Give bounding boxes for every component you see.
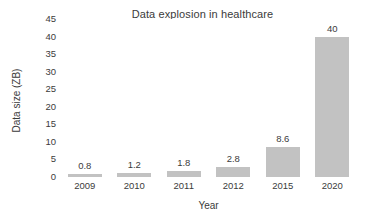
bar[interactable] [315,37,349,177]
bar[interactable] [167,171,201,177]
x-axis-tick-label: 2009 [74,180,95,192]
bar-chart-figure: Data explosion in healthcare Data size (… [0,0,367,223]
bar[interactable] [68,174,102,177]
y-axis-tick-label: 15 [30,119,56,129]
y-axis-tick-labels: 454035302520151050 [30,19,56,177]
x-axis-tick-labels: 200920102011201220152020 [60,180,357,194]
y-axis-tick-label: 20 [30,102,56,112]
y-axis-tick-label: 25 [30,84,56,94]
y-axis-tick-label: 45 [30,14,56,24]
y-axis-tick-label: 0 [30,172,56,182]
bar[interactable] [266,147,300,177]
bar-value-label: 40 [327,23,338,34]
bar-value-label: 1.8 [177,157,190,168]
x-axis-title: Year [60,200,357,211]
bar[interactable] [216,167,250,177]
bar[interactable] [117,173,151,177]
x-axis-tick-label: 2015 [272,180,293,192]
bar-group: 0.8 [60,19,110,177]
x-axis-tick-label: 2012 [223,180,244,192]
plot-area: 0.81.21.82.88.640 [60,19,357,177]
bar-value-label: 8.6 [276,133,289,144]
bar-value-label: 1.2 [128,159,141,170]
x-axis-tick-label: 2020 [322,180,343,192]
y-axis-tick-label: 35 [30,49,56,59]
y-axis-tick-label: 30 [30,67,56,77]
y-axis-tick-label: 40 [30,32,56,42]
bar-group: 1.2 [110,19,160,177]
y-axis-tick-label: 5 [30,154,56,164]
bar-value-label: 0.8 [78,160,91,171]
y-axis-tick-label: 10 [30,137,56,147]
bar-group: 2.8 [209,19,259,177]
bar-group: 40 [308,19,358,177]
x-axis-tick-label: 2010 [124,180,145,192]
bar-value-label: 2.8 [227,153,240,164]
bar-group: 1.8 [159,19,209,177]
bar-group: 8.6 [258,19,308,177]
x-axis-tick-label: 2011 [174,180,194,192]
y-axis-title: Data size (ZB) [11,41,22,161]
